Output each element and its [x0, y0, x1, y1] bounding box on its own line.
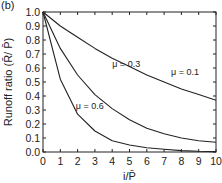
- x-tick-label: 4: [109, 155, 115, 167]
- y-tick-label: 0.5: [25, 76, 40, 88]
- x-axis-label: i/P̄: [123, 170, 136, 182]
- plot-frame: [43, 12, 216, 152]
- plot-area: 0123456789100.00.10.20.30.40.50.60.70.80…: [0, 0, 222, 183]
- runoff-ratio-chart: (b) 0123456789100.00.10.20.30.40.50.60.7…: [0, 0, 222, 183]
- x-tick-label: 2: [75, 155, 81, 167]
- y-tick-label: 0.3: [25, 104, 40, 116]
- y-tick-label: 0.7: [25, 48, 40, 60]
- y-tick-label: 1.0: [25, 6, 40, 18]
- x-tick-label: 5: [127, 155, 133, 167]
- x-tick-label: 7: [161, 155, 167, 167]
- y-tick-label: 0.2: [25, 118, 40, 130]
- x-tick-label: 0: [40, 155, 46, 167]
- x-tick-label: 1: [57, 155, 63, 167]
- y-tick-label: 0.6: [25, 62, 40, 74]
- series-line-2: [43, 12, 216, 152]
- y-tick-label: 0.8: [25, 34, 40, 46]
- curve-label: μ = 0.6: [76, 101, 104, 111]
- x-tick-label: 6: [144, 155, 150, 167]
- x-tick-label: 9: [196, 155, 202, 167]
- series-line-0: [43, 12, 216, 100]
- x-tick-label: 3: [92, 155, 98, 167]
- x-tick-label: 10: [210, 155, 222, 167]
- y-tick-label: 0.4: [25, 90, 40, 102]
- y-tick-label: 0.0: [25, 146, 40, 158]
- y-tick-label: 0.1: [25, 132, 40, 144]
- x-tick-label: 8: [178, 155, 184, 167]
- curve-label: μ = 0.3: [112, 59, 140, 69]
- y-axis-label: Runoff ratio (R̄/ P̄): [2, 38, 14, 126]
- curve-label: μ = 0.1: [171, 67, 199, 77]
- y-tick-label: 0.9: [25, 20, 40, 32]
